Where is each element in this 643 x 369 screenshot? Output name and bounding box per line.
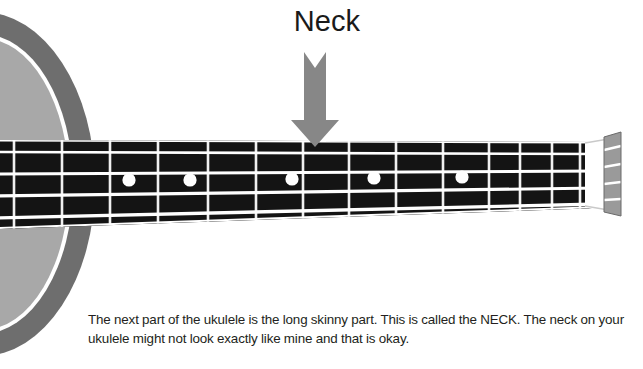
nut-slot [604, 199, 621, 200]
inlay-dot [183, 173, 196, 186]
neck-label: Neck [252, 4, 402, 38]
arrow-shape [291, 52, 339, 147]
figure-caption: The next part of the ukulele is the long… [88, 311, 636, 348]
nut-gap [585, 137, 603, 212]
inlay-dot [285, 172, 298, 185]
figure-canvas: Neck The next part of the ukulele is the… [0, 0, 643, 369]
ukulele-neck [0, 130, 601, 240]
nut-block [604, 132, 621, 216]
neck-pointer-arrow [291, 52, 339, 147]
ukulele-nut [585, 132, 621, 216]
inlay-dot [122, 173, 135, 186]
